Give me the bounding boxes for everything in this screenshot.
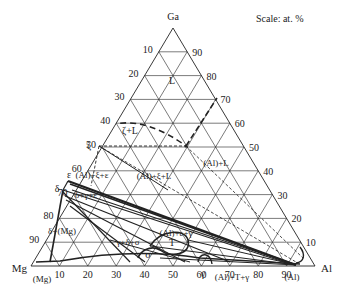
bottom-tick: 80 — [253, 269, 263, 280]
left-tick: 80 — [43, 210, 53, 221]
phase-label: γ — [200, 268, 206, 279]
right-tick: 40 — [263, 166, 273, 177]
vertex-mg: Mg — [12, 262, 28, 274]
phase-label: (Al)+L — [203, 158, 229, 168]
left-tick: 30 — [114, 91, 124, 102]
left-tick: 10 — [143, 44, 153, 55]
left-tick: 20 — [129, 68, 139, 79]
phase-label: (Al)+ξ+L — [137, 171, 172, 181]
right-tick: 90 — [192, 47, 202, 58]
bottom-tick: 40 — [140, 269, 150, 280]
scale-label: Scale: at. % — [256, 13, 303, 24]
phase-label: (Al)+ε+γ — [160, 228, 193, 238]
phase-label: ζ+L — [122, 125, 138, 137]
right-tick: 10 — [306, 237, 316, 248]
right-tick: 30 — [277, 190, 287, 201]
phase-label: δ — [55, 183, 60, 194]
phase-label: ε — [67, 169, 71, 180]
right-tick: 50 — [249, 142, 259, 153]
phase-label: (Al)+ξ+ε — [76, 170, 109, 180]
right-tick: 20 — [292, 213, 302, 224]
phase-label: σ — [145, 249, 151, 260]
left-tick: 40 — [100, 115, 110, 126]
bottom-tick: 30 — [111, 269, 121, 280]
phase-label: (Al) — [285, 272, 300, 282]
phase-label: γ+δ+σ — [115, 237, 139, 247]
phase-label: L — [169, 75, 175, 86]
phase-label: ζ — [87, 140, 91, 152]
ternary-diagram: 1020304050607080909080706050403020101020… — [0, 0, 338, 292]
bottom-tick: 10 — [54, 269, 64, 280]
phase-label: T — [169, 237, 175, 248]
phase-label: δ+(Mg) — [48, 226, 76, 236]
right-tick: 60 — [235, 118, 245, 129]
phase-label: (Al)+T+γ — [215, 272, 250, 282]
bottom-tick: 50 — [168, 269, 178, 280]
right-tick: 70 — [221, 94, 231, 105]
phase-label: (Mg) — [33, 274, 52, 284]
left-tick: 90 — [29, 234, 39, 245]
bottom-tick: 20 — [83, 269, 93, 280]
right-tick: 80 — [206, 71, 216, 82]
ternary-diagram-svg: 1020304050607080909080706050403020101020… — [0, 0, 338, 292]
vertex-al: Al — [321, 262, 332, 274]
vertex-ga: Ga — [167, 11, 179, 22]
phase-label: δ+γ+ε — [75, 190, 97, 200]
